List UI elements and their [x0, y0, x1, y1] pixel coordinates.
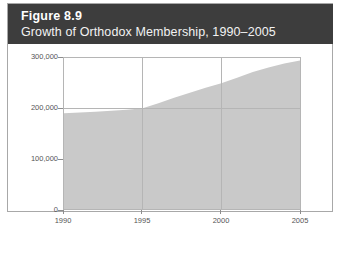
x-tick-mark-1995 — [141, 210, 142, 214]
gridline-vertical-1995 — [142, 58, 143, 209]
chart-area: 300,000 200,000 100,000 0 1990 1995 2000… — [8, 44, 333, 212]
y-axis: 300,000 200,000 100,000 0 — [8, 44, 58, 212]
y-tick-label-300000: 300,000 — [31, 53, 58, 61]
x-tick-label-1990: 1990 — [43, 216, 83, 225]
x-tick-label-2005: 2005 — [280, 216, 320, 225]
plot-frame — [63, 57, 301, 210]
gridline-vertical-2000 — [221, 58, 222, 209]
figure-number: Figure 8.9 — [21, 9, 333, 24]
x-tick-mark-1990 — [63, 210, 64, 214]
gridline-horizontal-200000 — [64, 108, 300, 109]
area-fill-path — [64, 61, 300, 209]
figure-header: Figure 8.9 Growth of Orthodox Membership… — [8, 4, 333, 44]
y-tick-label-100000: 100,000 — [31, 155, 58, 163]
figure-subtitle: Growth of Orthodox Membership, 1990–2005 — [21, 24, 333, 40]
x-tick-label-2000: 2000 — [201, 216, 241, 225]
x-tick-mark-2000 — [220, 210, 221, 214]
area-chart-series — [64, 58, 300, 209]
y-tick-label-200000: 200,000 — [31, 104, 58, 112]
figure-container: Figure 8.9 Growth of Orthodox Membership… — [7, 3, 333, 212]
x-tick-label-1995: 1995 — [122, 216, 162, 225]
x-tick-mark-2005 — [300, 210, 301, 214]
